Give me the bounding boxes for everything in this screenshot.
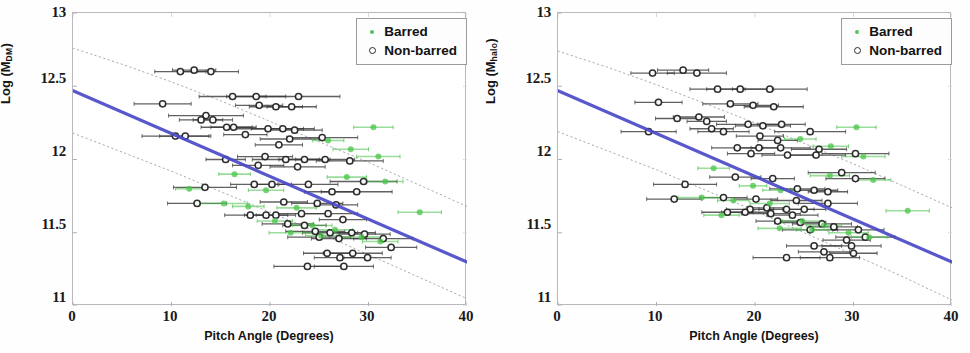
ytick-label: 11.5 bbox=[4, 216, 66, 233]
y-axis-label-right: Log (Mhalo) bbox=[483, 0, 499, 104]
y-axis-label-left: Log (MDM) bbox=[0, 0, 14, 104]
y-axis-label-subscript: halo bbox=[489, 43, 499, 62]
xtick-label: 20 bbox=[249, 308, 289, 325]
xtick-label: 0 bbox=[537, 308, 577, 325]
ytick-label: 11 bbox=[489, 289, 551, 306]
legend-label-nonbarred: Non-barred bbox=[384, 43, 457, 58]
legend-label-barred: Barred bbox=[384, 24, 428, 39]
xtick-label: 30 bbox=[832, 308, 872, 325]
legend-left: Barred Non-barred bbox=[356, 18, 467, 65]
x-axis-label-right: Pitch Angle (Degrees) bbox=[557, 329, 951, 343]
xtick-label: 40 bbox=[446, 308, 486, 325]
nonbarred-marker-icon bbox=[848, 47, 866, 54]
xtick-label: 0 bbox=[52, 308, 92, 325]
legend-item-nonbarred: Non-barred bbox=[363, 41, 457, 60]
legend-item-barred: Barred bbox=[363, 22, 457, 41]
y-axis-label-close: ) bbox=[483, 38, 498, 42]
panel-right: 13 12.5 12 11.5 11 Log (Mhalo) 0 10 20 3… bbox=[485, 0, 970, 353]
xtick-label: 20 bbox=[734, 308, 774, 325]
ytick-label: 11 bbox=[4, 289, 66, 306]
panel-left: 13 12.5 12 11.5 11 Log (MDM) 0 10 20 30 … bbox=[0, 0, 485, 353]
xtick-label: 40 bbox=[931, 308, 970, 325]
ytick-label: 12 bbox=[4, 143, 66, 160]
xtick-label: 10 bbox=[635, 308, 675, 325]
barred-marker-icon bbox=[363, 30, 381, 34]
y-axis-label-text: Log (M bbox=[483, 61, 498, 104]
y-axis-label-text: Log (M bbox=[0, 61, 13, 104]
ytick-label: 12 bbox=[489, 143, 551, 160]
xtick-label: 30 bbox=[347, 308, 387, 325]
y-axis-label-close: ) bbox=[0, 43, 13, 47]
y-axis-label-subscript: DM bbox=[4, 48, 14, 62]
dual-scatter-figure: 13 12.5 12 11.5 11 Log (MDM) 0 10 20 30 … bbox=[0, 0, 970, 353]
legend-item-nonbarred: Non-barred bbox=[848, 41, 942, 60]
nonbarred-marker-icon bbox=[363, 47, 381, 54]
legend-right: Barred Non-barred bbox=[841, 18, 952, 65]
legend-item-barred: Barred bbox=[848, 22, 942, 41]
legend-label-barred: Barred bbox=[869, 24, 913, 39]
xtick-label: 10 bbox=[150, 308, 190, 325]
legend-label-nonbarred: Non-barred bbox=[869, 43, 942, 58]
barred-marker-icon bbox=[848, 30, 866, 34]
ytick-label: 11.5 bbox=[489, 216, 551, 233]
x-axis-label-left: Pitch Angle (Degrees) bbox=[72, 329, 466, 343]
